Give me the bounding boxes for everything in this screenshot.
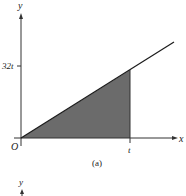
panel-b-y-axis-label: y — [18, 177, 23, 187]
diagram-canvas: y x O 32t t (a) y — [0, 0, 186, 196]
panel-b-y-axis-arrow-icon — [20, 189, 24, 194]
y-axis-arrow-icon — [19, 13, 23, 19]
y-axis-label: y — [17, 0, 23, 11]
y-tick-label: 32t — [1, 61, 14, 71]
x-axis-arrow-icon — [172, 136, 178, 140]
x-tick-label: t — [128, 145, 131, 155]
x-axis-label: x — [178, 133, 184, 144]
origin-label: O — [11, 141, 18, 152]
caption-a: (a) — [92, 158, 102, 168]
